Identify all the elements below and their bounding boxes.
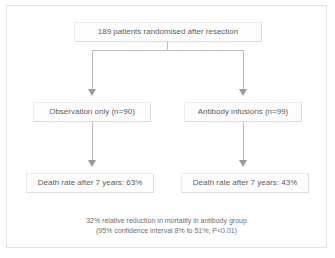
connector-to-treatment-arm (243, 50, 244, 90)
figure-footnote: 32% relative reduction in mortality in a… (16, 216, 317, 236)
node-treatment-outcome-label: Death rate after 7 years: 43% (193, 179, 298, 188)
arrowhead-down-icon (88, 89, 96, 96)
node-enrolment-label: 189 patients randomised after resection (98, 28, 239, 37)
node-observation-arm: Observation only (n=90) (33, 102, 151, 122)
footnote-line-2: (95% confidence interval 8% to 51%; P<0.… (16, 226, 317, 236)
connector-to-treatment-outcome (243, 122, 244, 161)
flowchart-figure: 189 patients randomised after resection … (0, 0, 335, 258)
node-control-outcome-label: Death rate after 7 years: 63% (38, 179, 143, 188)
node-antibody-arm: Antibody infusions (n=99) (184, 102, 302, 122)
node-antibody-arm-label: Antibody infusions (n=99) (198, 108, 289, 117)
footnote-line-1: 32% relative reduction in mortality in a… (16, 216, 317, 226)
node-enrolment: 189 patients randomised after resection (74, 22, 262, 42)
connector-to-control-arm (92, 50, 93, 90)
node-control-outcome: Death rate after 7 years: 63% (26, 173, 154, 193)
node-observation-arm-label: Observation only (n=90) (49, 108, 135, 117)
node-treatment-outcome: Death rate after 7 years: 43% (181, 173, 309, 193)
arrowhead-down-icon (88, 160, 96, 167)
arrowhead-down-icon (239, 89, 247, 96)
connector-to-control-outcome (92, 122, 93, 161)
connector-split-bar (92, 50, 243, 51)
arrowhead-down-icon (239, 160, 247, 167)
